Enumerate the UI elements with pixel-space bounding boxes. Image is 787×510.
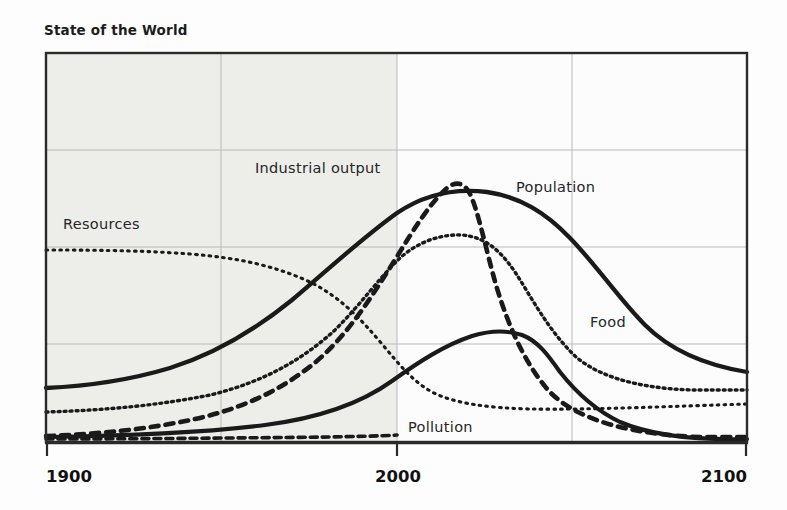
x-tick-label-2000: 2000 xyxy=(375,467,421,486)
x-axis-ticks xyxy=(47,443,746,456)
curve-label-resources: Resources xyxy=(63,216,140,232)
curve-label-food: Food xyxy=(590,314,626,330)
curve-label-population: Population xyxy=(516,179,595,195)
state-of-the-world-chart: Resources Industrial output Population F… xyxy=(0,0,787,510)
x-tick-label-1900: 1900 xyxy=(46,467,92,486)
x-tick-label-2100: 2100 xyxy=(701,467,747,486)
chart-figure: State of the World Resou xyxy=(0,0,787,510)
curve-label-industrial-output: Industrial output xyxy=(255,160,381,176)
curve-label-pollution: Pollution xyxy=(408,419,473,435)
